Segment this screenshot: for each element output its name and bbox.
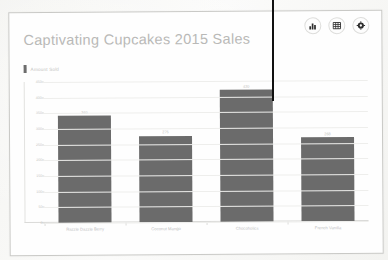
bar-chart-button[interactable]	[304, 17, 321, 34]
y-tick-mark	[42, 113, 44, 114]
y-axis-tick-label: 0	[41, 221, 43, 225]
y-tick-mark	[42, 207, 44, 208]
y-axis-tick-label: 200	[36, 158, 42, 162]
y-tick-mark	[42, 128, 44, 129]
y-tick-mark	[42, 81, 44, 82]
y-axis-tick-label: 400	[36, 96, 42, 100]
bar[interactable]: 268	[301, 137, 355, 221]
bar-chart-icon	[308, 21, 317, 30]
chart-card: Captivating Cupcakes 2015 Sales	[8, 10, 383, 256]
y-axis-tick-label: 50	[38, 205, 42, 209]
y-tick-mark	[42, 144, 44, 145]
chart-legend: Amount Sold	[24, 65, 60, 73]
bar-slot: 420Chocoholics	[206, 80, 288, 221]
settings-button[interactable]	[352, 17, 369, 34]
bar-value-label: 275	[162, 131, 168, 135]
y-axis-tick-label: 150	[36, 174, 42, 178]
chart-plot: 340Razzle Dazzle Berry275Coconut Mango42…	[24, 75, 373, 245]
y-axis-tick-label: 250	[36, 143, 42, 147]
y-axis-tick-label: 350	[36, 111, 42, 115]
x-axis-category-label: Coconut Mango	[151, 226, 181, 231]
y-tick-mark	[42, 191, 44, 192]
page-title: Captivating Cupcakes 2015 Sales	[23, 31, 250, 48]
bar-value-label: 268	[324, 132, 330, 136]
table-button[interactable]	[328, 17, 345, 34]
x-axis-category-label: Chocoholics	[236, 226, 259, 231]
x-axis-category-label: Razzle Dazzle Berry	[66, 227, 104, 232]
bar-slot: 340Razzle Dazzle Berry	[44, 81, 126, 222]
y-tick-mark	[43, 222, 45, 223]
bar[interactable]: 420	[220, 90, 274, 222]
bar-group: 340Razzle Dazzle Berry275Coconut Mango42…	[44, 80, 369, 223]
table-icon	[332, 21, 341, 30]
y-tick-mark	[42, 160, 44, 161]
legend-swatch	[24, 65, 27, 73]
bar-value-label: 420	[243, 85, 249, 89]
plot-area: 340Razzle Dazzle Berry275Coconut Mango42…	[44, 80, 369, 223]
y-tick-mark	[42, 175, 44, 176]
bar-slot: 268French Vanilla	[287, 80, 369, 221]
gear-icon	[356, 21, 365, 30]
legend-label: Amount Sold	[31, 66, 60, 71]
vertical-line-artifact	[272, 0, 274, 101]
y-axis	[24, 82, 26, 223]
chart-toolbar	[304, 17, 369, 34]
bar-slot: 275Coconut Mango	[125, 81, 207, 222]
y-axis-tick-label: 100	[36, 190, 42, 194]
bar[interactable]: 275	[139, 136, 193, 222]
y-tick-mark	[42, 97, 44, 98]
x-axis-category-label: French Vanilla	[315, 225, 341, 230]
y-axis-tick-label: 450	[36, 80, 42, 84]
y-axis-tick-label: 300	[36, 127, 42, 131]
